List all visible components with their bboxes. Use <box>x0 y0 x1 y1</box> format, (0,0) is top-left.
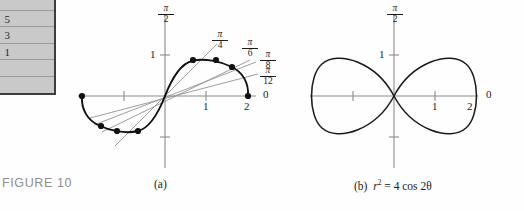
caption-equation-rhs: = 4 cos 2θ <box>384 180 431 192</box>
caption-exponent: 2 <box>378 178 382 187</box>
panel-caption-a: (a) <box>154 178 167 190</box>
radial-tick-label-2-b: 2 <box>467 100 473 112</box>
table-row: 1 <box>0 44 54 61</box>
chart-panel-b: π 2 1 1 2 0 (b) r2 = 4 cos 2θ <box>300 0 524 211</box>
data-point <box>135 128 141 134</box>
radial-tick-label-2-a: 2 <box>244 100 250 112</box>
denominator-4: 4 <box>212 41 228 51</box>
numerator-pi: π <box>212 30 228 41</box>
axes-group-b <box>310 14 478 168</box>
axis-label-pi-over-2-a: π 2 <box>158 4 174 25</box>
panel-caption-b: (b) r2 = 4 cos 2θ <box>354 178 432 192</box>
radial-tick-label-1-b: 1 <box>432 100 438 112</box>
data-point <box>98 123 104 129</box>
data-point <box>79 93 85 99</box>
denominator-6: 6 <box>242 49 258 59</box>
data-point <box>229 64 235 70</box>
chart-panel-a: π 2 π 4 π 6 π 8 π 12 1 1 2 0 (a) <box>60 0 280 211</box>
numerator-pi: π <box>242 38 258 49</box>
table-row: 3 <box>0 27 54 44</box>
table-cell-value: 1 <box>5 44 11 60</box>
table-cell-value: 3 <box>5 27 11 43</box>
table-row <box>0 0 54 11</box>
table-row <box>0 60 54 77</box>
table-row: 5 <box>0 11 54 28</box>
curve-branch-right <box>165 60 248 96</box>
data-point <box>213 57 219 63</box>
numerator-pi: π <box>158 4 174 15</box>
data-point <box>190 57 196 63</box>
denominator-12: 12 <box>260 77 276 87</box>
numerator-pi: π <box>260 66 276 77</box>
axis-label-pi-over-2-b: π 2 <box>387 4 403 25</box>
polar-axis-label-0-a: 0 <box>263 88 269 100</box>
clipped-data-table: 5 3 1 <box>0 0 56 95</box>
ray-label-pi-over-6: π 6 <box>242 38 258 59</box>
radial-tick-label-1-a: 1 <box>203 100 209 112</box>
vertical-tick-label-1-a: 1 <box>150 48 156 60</box>
figure-page: 5 3 1 FIGURE 10 <box>0 0 524 211</box>
vertical-tick-label-1-b: 1 <box>379 48 385 60</box>
denominator-2: 2 <box>387 15 403 25</box>
numerator-pi: π <box>260 50 276 61</box>
ray-label-pi-over-12: π 12 <box>260 66 276 87</box>
polar-axis-label-0-b: 0 <box>486 88 492 100</box>
polar-plot-a <box>60 0 280 175</box>
table-row <box>0 77 54 94</box>
ray-pi-over-8 <box>94 62 256 125</box>
data-point <box>245 93 251 99</box>
denominator-2: 2 <box>158 15 174 25</box>
ray-label-pi-over-4: π 4 <box>212 30 228 51</box>
table-cell-value: 5 <box>5 11 11 27</box>
numerator-pi: π <box>387 4 403 15</box>
data-point <box>114 128 120 134</box>
caption-prefix-b: (b) <box>354 180 367 192</box>
